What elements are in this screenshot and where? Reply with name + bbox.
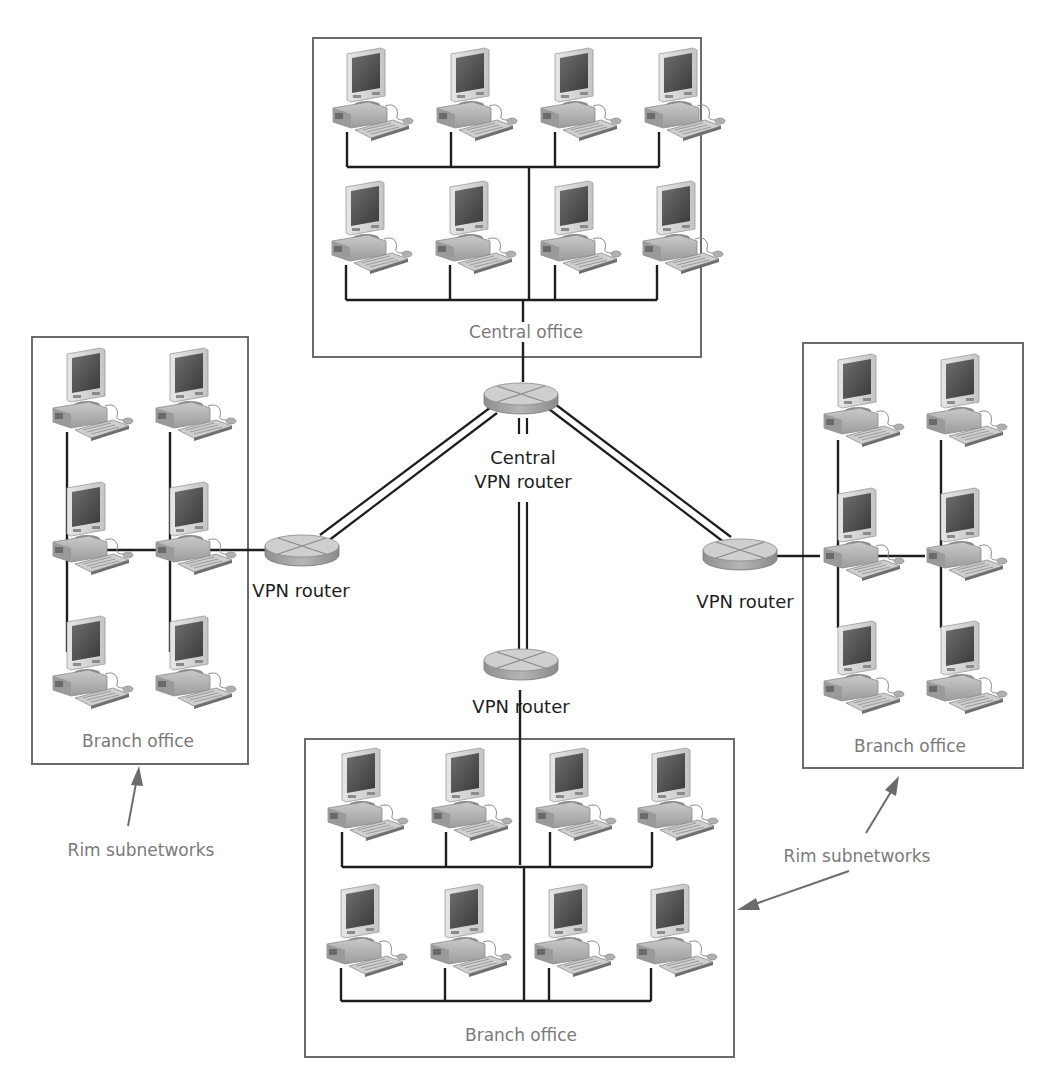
desktop-computer-icon — [327, 884, 407, 977]
desktop-computer-icon — [645, 48, 725, 141]
left-router-label: VPN router — [252, 580, 350, 601]
desktop-computer-icon — [824, 354, 904, 447]
desktop-computer-icon — [541, 48, 621, 141]
desktop-computer-icon — [328, 748, 408, 841]
desktop-computer-icon — [824, 488, 904, 581]
branch-office-right-label: Branch office — [854, 736, 966, 756]
central-office-label: Central office — [469, 322, 583, 342]
rim-subnetworks-label-left: Rim subnetworks — [68, 840, 215, 860]
central-router-icon — [484, 383, 558, 414]
rim-subnetworks-callout-right: Rim subnetworks — [737, 776, 931, 910]
branch-office-left: Branch office — [32, 337, 266, 764]
arrow-head-icon — [737, 898, 760, 910]
desktop-computer-icon — [431, 884, 511, 977]
branch-office-bottom-label: Branch office — [465, 1025, 577, 1045]
desktop-computer-icon — [535, 884, 615, 977]
central-router-label-line2: VPN router — [474, 471, 572, 492]
desktop-computer-icon — [437, 48, 517, 141]
branch-office-left-label: Branch office — [82, 731, 194, 751]
arrow-head-icon — [131, 766, 143, 786]
desktop-computer-icon — [53, 616, 133, 709]
desktop-computer-icon — [53, 482, 133, 575]
right-router-icon — [703, 539, 777, 570]
desktop-computer-icon — [156, 616, 236, 709]
vpn-tunnels — [320, 401, 731, 652]
rim-subnetworks-label-right: Rim subnetworks — [784, 846, 931, 866]
desktop-computer-icon — [643, 181, 723, 274]
desktop-computer-icon — [53, 348, 133, 441]
desktop-computer-icon — [156, 348, 236, 441]
desktop-computer-icon — [156, 482, 236, 575]
desktop-computer-icon — [333, 48, 413, 141]
desktop-computer-icon — [927, 488, 1007, 581]
desktop-computer-icon — [536, 748, 616, 841]
desktop-computer-icon — [927, 354, 1007, 447]
bottom-router-label: VPN router — [472, 696, 570, 717]
network-diagram: Central office Branch office Branch offi… — [0, 0, 1056, 1083]
desktop-computer-icon — [541, 181, 621, 274]
desktop-computer-icon — [824, 621, 904, 714]
central-office: Central office — [313, 38, 725, 382]
desktop-computer-icon — [436, 181, 516, 274]
desktop-computer-icon — [432, 748, 512, 841]
arrow-head-icon — [885, 776, 899, 796]
branch-office-right: Branch office — [776, 343, 1023, 768]
branch-office-bottom: Branch office — [305, 690, 734, 1057]
desktop-computer-icon — [332, 181, 412, 274]
bottom-router-icon — [484, 649, 558, 680]
desktop-computer-icon — [637, 884, 717, 977]
rim-subnetworks-callout-left: Rim subnetworks — [68, 766, 215, 860]
desktop-computer-icon — [927, 621, 1007, 714]
desktop-computer-icon — [638, 748, 718, 841]
right-router-label: VPN router — [696, 591, 794, 612]
left-router-icon — [265, 535, 339, 566]
central-router-label-line1: Central — [490, 447, 556, 468]
